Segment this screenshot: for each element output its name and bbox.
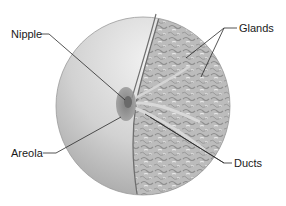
ducts-label: Ducts: [234, 157, 262, 169]
breast-anatomy-diagram: Nipple Glands Areola Ducts: [0, 0, 286, 206]
nipple-illustration: [124, 96, 132, 108]
areola-label: Areola: [11, 147, 43, 159]
nipple-label: Nipple: [11, 28, 42, 40]
glands-label: Glands: [239, 22, 274, 34]
